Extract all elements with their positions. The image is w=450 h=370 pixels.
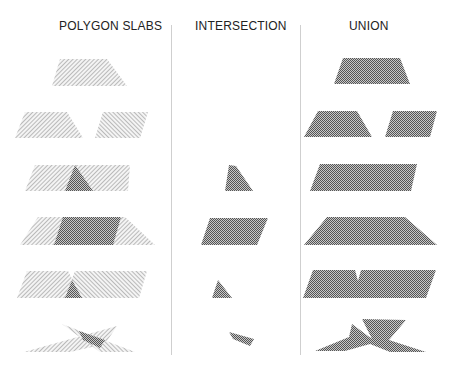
union-row4-1: [304, 217, 437, 245]
union-row2-2: [385, 111, 437, 137]
intersection-row4: [201, 218, 268, 245]
union-group: [303, 58, 437, 352]
union-row3-1: [310, 164, 417, 191]
slab-row2-2: [95, 112, 148, 138]
polygon-slabs-group: [15, 59, 155, 352]
slab-overlap-row4: [54, 217, 121, 245]
slab-row1-1: [52, 59, 127, 86]
union-row1-1: [334, 58, 410, 84]
slab-overlap-group: [54, 165, 121, 348]
intersection-row6: [229, 332, 254, 346]
slab-row2-1: [15, 112, 83, 138]
union-row5-1: [303, 270, 436, 298]
diagram-canvas: [0, 0, 450, 370]
intersection-group: [201, 165, 268, 346]
union-row2-1: [304, 111, 372, 137]
union-row6-1: [315, 319, 426, 352]
intersection-row3: [225, 165, 253, 191]
intersection-row5: [212, 280, 232, 298]
